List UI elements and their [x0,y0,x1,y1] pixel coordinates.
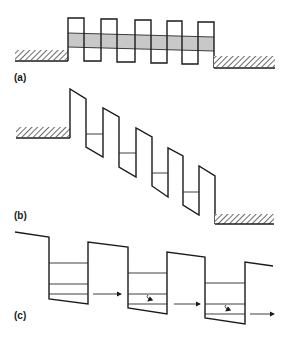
left-contact-b [16,127,70,137]
panel-label-c: (c) [14,310,26,321]
miniband-a [68,33,214,51]
relaxation-arrow-1 [147,295,149,301]
panel-c: (c) [14,232,274,324]
panel-label-b: (b) [14,210,27,221]
relaxation-arrow-2 [225,305,227,311]
panel-a: (a) [14,18,275,83]
band-profile-c [15,232,273,324]
band-diagram-figure: (a) (b) [0,0,289,339]
right-contact-b [215,214,274,224]
panel-b: (b) [14,89,274,224]
superlattice-profile-b [70,89,215,224]
panel-label-a: (a) [14,72,26,83]
right-contact-a [214,56,275,67]
left-contact-a [15,50,68,60]
